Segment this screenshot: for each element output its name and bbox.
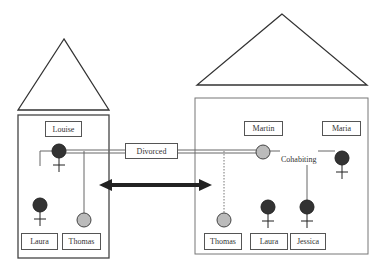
label-laura-right: Laura [250,233,288,250]
female-symbol-laura-left [33,198,47,226]
label-thomas-left: Thomas [62,233,101,250]
label-laura-left: Laura [21,233,58,250]
female-symbol-jessica [300,200,314,228]
label-thomas-right: Thomas [204,233,242,250]
male-symbol-thomas-left [77,213,91,227]
male-symbol-martin [256,145,270,159]
label-maria: Maria [322,121,361,136]
female-symbol-louise [52,144,66,172]
label-divorced: Divorced [125,143,178,159]
male-symbol-thomas-right [217,213,231,227]
label-louise: Louise [45,121,82,137]
right-roof [197,14,367,85]
female-symbol-maria [335,151,349,179]
label-martin: Martin [244,121,283,136]
label-cohabiting: Cohabiting [281,155,317,164]
label-jessica: Jessica [290,233,326,250]
female-symbol-laura-right [261,200,275,228]
left-roof [18,39,109,110]
